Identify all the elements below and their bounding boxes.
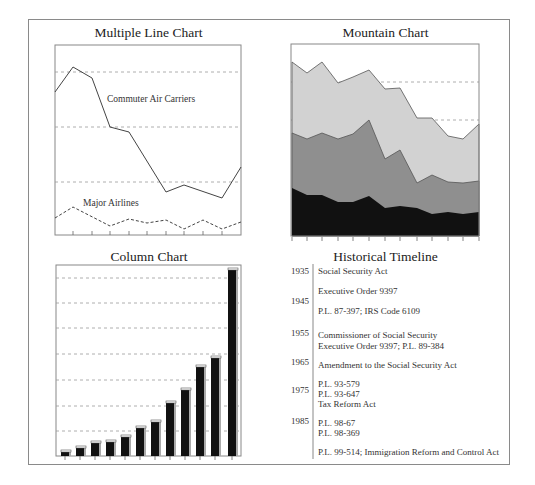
bar-2 — [76, 446, 86, 456]
bar-6 — [136, 426, 146, 456]
timeline-event: Social Security Act — [318, 266, 388, 277]
column-chart-x-ticks — [65, 456, 232, 460]
timeline-year: 1965 — [279, 357, 309, 367]
column-bars — [61, 268, 238, 456]
timeline-year: 1945 — [279, 296, 309, 306]
line-chart-x-ticks — [73, 231, 222, 235]
bar-5 — [121, 435, 131, 456]
bar-9 — [181, 388, 191, 456]
major-airlines-label: Major Airlines — [83, 198, 139, 208]
timeline-year: 1935 — [279, 266, 309, 276]
bar-3 — [91, 441, 101, 456]
line-chart-gridlines — [55, 72, 241, 182]
bar-12 — [228, 268, 238, 456]
timeline-event: P.L. 87-397; IRS Code 6109 — [318, 306, 420, 317]
major-airlines-line — [55, 207, 241, 229]
timeline-event: Executive Order 9397; P.L. 89-384 — [318, 341, 444, 352]
line-chart: Commuter Air Carriers Major Airlines — [55, 45, 241, 235]
bar-7 — [151, 420, 161, 456]
timeline-year: 1985 — [279, 416, 309, 426]
timeline-event: P.L. 98-369 — [318, 428, 360, 439]
timeline-event: Tax Reform Act — [318, 399, 376, 410]
commuter-air-carriers-line — [55, 67, 241, 198]
mountain-chart — [291, 44, 479, 241]
bar-4 — [106, 440, 116, 456]
timeline-event: Amendment to the Social Security Act — [318, 360, 457, 371]
commuter-air-carriers-label: Commuter Air Carriers — [107, 94, 195, 104]
timeline-year: 1975 — [279, 385, 309, 395]
bar-1 — [61, 450, 71, 456]
bar-11 — [211, 356, 221, 456]
timeline-event: P.L. 99-514; Immigration Reform and Cont… — [318, 447, 499, 458]
timeline-event: Commissioner of Social Security — [318, 330, 437, 341]
timeline-year: 1955 — [279, 328, 309, 338]
mountain-chart-x-ticks — [292, 237, 479, 241]
bar-10 — [196, 365, 206, 456]
timeline-event: Executive Order 9397 — [318, 286, 397, 297]
bar-8 — [166, 401, 176, 456]
charts-canvas: Commuter Air Carriers Major Airlines — [0, 0, 535, 485]
column-chart — [56, 265, 241, 460]
